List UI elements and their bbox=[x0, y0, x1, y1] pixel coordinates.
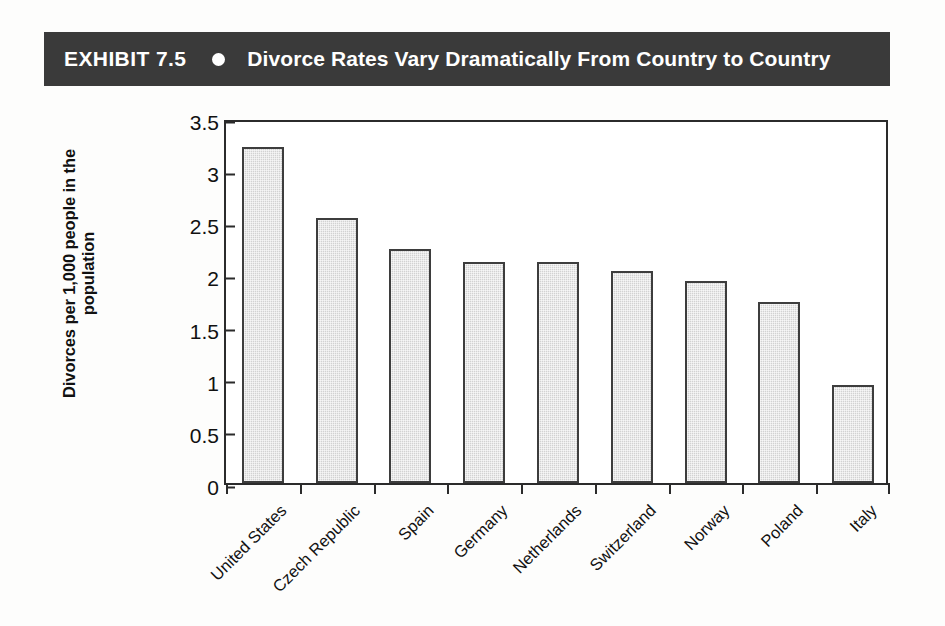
plot-area: 00.511.522.533.5 bbox=[224, 120, 888, 485]
x-axis-label: Norway bbox=[680, 501, 733, 554]
x-axis-tick-mark bbox=[521, 483, 523, 494]
y-axis-tick-label: 1.5 bbox=[190, 320, 226, 341]
x-axis-tick-mark bbox=[595, 483, 597, 494]
y-axis-tick-label: 2.5 bbox=[190, 216, 226, 237]
exhibit-header-bar: EXHIBIT 7.5 Divorce Rates Vary Dramatica… bbox=[44, 32, 890, 86]
x-axis-tick-mark bbox=[742, 483, 744, 494]
filled-circle-bullet-icon bbox=[212, 53, 225, 66]
y-axis-tick: 2 bbox=[207, 268, 226, 289]
y-axis-tick: 0.5 bbox=[190, 424, 226, 445]
bar bbox=[611, 271, 653, 483]
y-axis-tick-label: 2 bbox=[207, 268, 226, 289]
x-axis-label: Spain bbox=[395, 501, 438, 544]
x-axis-tick-mark bbox=[300, 483, 302, 494]
x-axis-label: Switzerland bbox=[586, 501, 660, 575]
x-axis-tick-mark bbox=[669, 483, 671, 494]
y-axis-title-line1: Divorces per 1,000 people in the bbox=[60, 128, 79, 418]
y-axis-tick-label: 3.5 bbox=[190, 112, 226, 133]
bar bbox=[832, 385, 874, 483]
y-axis-tick: 1.5 bbox=[190, 320, 226, 341]
bar bbox=[758, 302, 800, 483]
x-axis-label: Netherlands bbox=[509, 501, 585, 577]
y-axis-title-line2: population bbox=[79, 128, 98, 418]
y-axis-tick-label: 1 bbox=[207, 372, 226, 393]
y-axis-tick: 3.5 bbox=[190, 112, 226, 133]
exhibit-figure: EXHIBIT 7.5 Divorce Rates Vary Dramatica… bbox=[0, 0, 945, 626]
y-axis-title: Divorces per 1,000 people in the populat… bbox=[60, 128, 99, 418]
y-axis-tick: 2.5 bbox=[190, 216, 226, 237]
x-axis-tick-mark bbox=[816, 483, 818, 494]
x-axis-tick-mark bbox=[374, 483, 376, 494]
bar-chart: Divorces per 1,000 people in the populat… bbox=[0, 86, 945, 626]
bar bbox=[463, 262, 505, 483]
x-axis-label: Germany bbox=[450, 501, 511, 562]
exhibit-number: EXHIBIT 7.5 bbox=[64, 47, 186, 71]
x-axis-label: Italy bbox=[846, 501, 881, 536]
y-axis-tick-label: 0 bbox=[207, 477, 226, 498]
bar bbox=[685, 281, 727, 483]
y-axis-tick: 1 bbox=[207, 372, 226, 393]
exhibit-title: Divorce Rates Vary Dramatically From Cou… bbox=[247, 47, 830, 71]
bar bbox=[537, 262, 579, 483]
y-axis-tick: 0 bbox=[207, 477, 226, 498]
bar bbox=[316, 218, 358, 483]
x-axis-tick-mark bbox=[888, 483, 890, 494]
y-axis-tick: 3 bbox=[207, 164, 226, 185]
x-axis-label: Poland bbox=[757, 501, 807, 551]
bar bbox=[242, 147, 284, 483]
y-axis-tick-label: 3 bbox=[207, 164, 226, 185]
x-axis-tick-mark bbox=[226, 483, 228, 494]
y-axis-tick-label: 0.5 bbox=[190, 424, 226, 445]
bars-layer bbox=[226, 122, 886, 483]
x-axis-tick-mark bbox=[447, 483, 449, 494]
bar bbox=[389, 249, 431, 483]
